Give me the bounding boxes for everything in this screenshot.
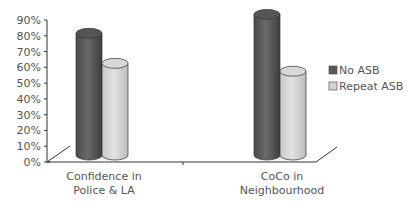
- y-tick-label: 20%: [17, 124, 41, 137]
- y-tick-label: 30%: [17, 109, 41, 122]
- y-axis: 0%10%20%30%40%50%60%70%80%90%: [17, 14, 47, 169]
- y-tick-label: 80%: [17, 30, 41, 43]
- y-tick-label: 90%: [17, 14, 41, 27]
- category-label: Neighbourhood: [240, 184, 324, 197]
- legend-item: Repeat ASB: [329, 80, 403, 93]
- legend-swatch: [329, 66, 337, 74]
- y-tick-label: 60%: [17, 61, 41, 74]
- y-tick-label: 50%: [17, 77, 41, 90]
- bar-repeat-asb: [102, 58, 128, 160]
- category-labels: Confidence inPolice & LACoCo inNeighbour…: [66, 170, 324, 197]
- legend: No ASBRepeat ASB: [329, 64, 403, 93]
- legend-label: No ASB: [339, 64, 380, 77]
- bars: [70, 9, 316, 162]
- category-label: CoCo in: [261, 170, 303, 183]
- y-tick-label: 70%: [17, 46, 41, 59]
- bar-chart: 0%10%20%30%40%50%60%70%80%90% Confidence…: [0, 0, 407, 205]
- y-tick-label: 40%: [17, 93, 41, 106]
- bar-repeat-asb: [280, 66, 306, 160]
- y-tick-label: 0%: [24, 156, 41, 169]
- category-label: Confidence in: [66, 170, 141, 183]
- bar-no-asb: [254, 9, 280, 160]
- bar-no-asb: [76, 28, 102, 160]
- legend-swatch: [329, 82, 337, 90]
- y-tick-label: 10%: [17, 140, 41, 153]
- category-label: Police & LA: [73, 184, 135, 197]
- legend-item: No ASB: [329, 64, 380, 77]
- legend-label: Repeat ASB: [339, 80, 403, 93]
